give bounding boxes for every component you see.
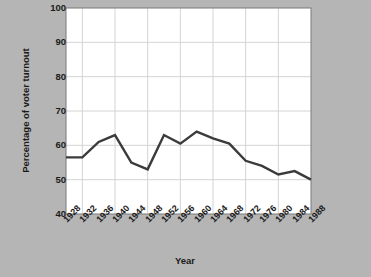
x-tick-label: 1988	[307, 204, 328, 225]
y-axis-title: Percentage of voter turnout	[20, 26, 31, 196]
x-axis-tick-labels: 1928193219361940194419481952195619601964…	[0, 0, 371, 277]
x-axis-title: Year	[60, 255, 310, 266]
voter-turnout-line-chart: 100908070605040 192819321936194019441948…	[0, 0, 371, 277]
